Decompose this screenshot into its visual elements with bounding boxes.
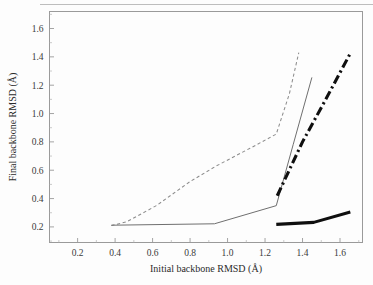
x-tick-label: 1.4 — [297, 248, 309, 258]
series-thick-solid — [276, 212, 350, 224]
y-axis-title: Final backbone RMSD (Å) — [7, 73, 19, 182]
y-tick-label: 0.2 — [32, 222, 44, 232]
y-tick-label: 0.6 — [32, 166, 44, 176]
x-tick-label: 0.8 — [184, 248, 196, 258]
y-tick-label: 0.8 — [32, 137, 44, 147]
y-axis-ticks — [50, 14, 55, 241]
y-tick-label: 1.4 — [32, 52, 44, 62]
x-tick-label: 0.6 — [147, 248, 159, 258]
series-thick-dash-dot — [277, 53, 350, 195]
data-series-layer — [111, 53, 350, 226]
y-tick-label: 0.4 — [32, 194, 44, 204]
rmsd-scatter-plot: 0.20.40.60.81.01.21.41.6 0.20.40.60.81.0… — [0, 0, 373, 285]
figure-container: 0.20.40.60.81.01.21.41.6 0.20.40.60.81.0… — [0, 0, 373, 285]
y-tick-label: 1.6 — [32, 24, 44, 34]
x-tick-label: 0.2 — [72, 248, 84, 258]
x-tick-label: 1.0 — [222, 248, 234, 258]
y-axis-tick-labels: 0.20.40.60.81.01.21.41.6 — [32, 24, 44, 232]
x-axis-title: Initial backbone RMSD (Å) — [150, 263, 262, 275]
x-tick-label: 0.4 — [109, 248, 121, 258]
x-tick-label: 1.2 — [259, 248, 271, 258]
series-thin-solid — [111, 77, 312, 225]
x-tick-label: 1.6 — [334, 248, 346, 258]
series-thin-dashed — [111, 53, 298, 226]
y-tick-label: 1.0 — [32, 109, 44, 119]
x-axis-tick-labels: 0.20.40.60.81.01.21.41.6 — [72, 248, 347, 258]
x-axis-ticks — [59, 238, 359, 243]
y-tick-label: 1.2 — [32, 81, 44, 91]
plot-frame — [50, 12, 363, 243]
